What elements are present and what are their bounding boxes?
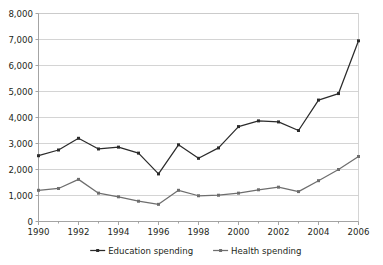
data-point-education-spending-1992 <box>77 137 80 140</box>
x-tick-label-2000: 2000 <box>228 227 250 237</box>
x-tick-label-2006: 2006 <box>348 227 370 237</box>
data-point-education-spending-2004 <box>317 99 320 102</box>
data-point-education-spending-2003 <box>297 129 300 132</box>
legend-label-health-spending: Health spending <box>231 246 301 256</box>
data-point-education-spending-1998 <box>197 157 200 160</box>
data-point-health-spending-1991 <box>57 187 60 190</box>
series-line-education-spending <box>39 41 359 174</box>
data-point-education-spending-1997 <box>177 143 180 146</box>
data-point-education-spending-1999 <box>217 146 220 149</box>
data-point-education-spending-1991 <box>57 149 60 152</box>
data-point-education-spending-1996 <box>157 172 160 175</box>
data-point-education-spending-2002 <box>277 120 280 123</box>
data-point-health-spending-1993 <box>97 192 100 195</box>
data-point-health-spending-1992 <box>77 178 80 181</box>
y-tick-label-4000: 4,000 <box>8 113 33 123</box>
chart-canvas: 01,0002,0003,0004,0005,0006,0007,0008,00… <box>0 0 383 265</box>
y-tick-label-1000: 1,000 <box>8 191 33 201</box>
x-tick-label-2004: 2004 <box>308 227 330 237</box>
x-tick-label-2002: 2002 <box>268 227 290 237</box>
line-chart: 01,0002,0003,0004,0005,0006,0007,0008,00… <box>0 0 383 265</box>
data-point-health-spending-1999 <box>217 194 220 197</box>
data-point-health-spending-1996 <box>157 203 160 206</box>
data-point-health-spending-2003 <box>297 190 300 193</box>
x-tick-label-1994: 1994 <box>108 227 130 237</box>
y-tick-label-2000: 2,000 <box>8 165 33 175</box>
data-point-education-spending-1994 <box>117 146 120 149</box>
data-point-health-spending-2006 <box>357 155 360 158</box>
x-tick-label-1992: 1992 <box>68 227 90 237</box>
data-point-education-spending-2005 <box>337 92 340 95</box>
data-point-health-spending-2000 <box>237 192 240 195</box>
data-point-education-spending-2000 <box>237 125 240 128</box>
data-point-health-spending-1994 <box>117 195 120 198</box>
legend-label-education-spending: Education spending <box>108 246 193 256</box>
data-point-health-spending-1990 <box>37 189 40 192</box>
data-point-education-spending-2001 <box>257 119 260 122</box>
y-tick-label-6000: 6,000 <box>8 61 33 71</box>
x-tick-label-1998: 1998 <box>188 227 210 237</box>
data-point-health-spending-1995 <box>137 200 140 203</box>
data-point-education-spending-1993 <box>97 147 100 150</box>
data-point-health-spending-1997 <box>177 189 180 192</box>
legend-marker-health-spending <box>219 249 222 252</box>
data-point-education-spending-1990 <box>37 154 40 157</box>
y-tick-label-8000: 8,000 <box>8 9 33 19</box>
data-point-health-spending-2004 <box>317 179 320 182</box>
y-tick-label-7000: 7,000 <box>8 35 33 45</box>
y-tick-label-3000: 3,000 <box>8 139 33 149</box>
y-tick-label-0: 0 <box>28 217 33 227</box>
y-tick-label-5000: 5,000 <box>8 87 33 97</box>
data-point-health-spending-1998 <box>197 194 200 197</box>
legend-marker-education-spending <box>96 249 99 252</box>
x-tick-label-1996: 1996 <box>148 227 170 237</box>
data-point-education-spending-2006 <box>357 39 360 42</box>
x-tick-label-1990: 1990 <box>28 227 50 237</box>
data-point-health-spending-2005 <box>337 168 340 171</box>
data-point-health-spending-2001 <box>257 188 260 191</box>
data-point-health-spending-2002 <box>277 186 280 189</box>
data-point-education-spending-1995 <box>137 152 140 155</box>
